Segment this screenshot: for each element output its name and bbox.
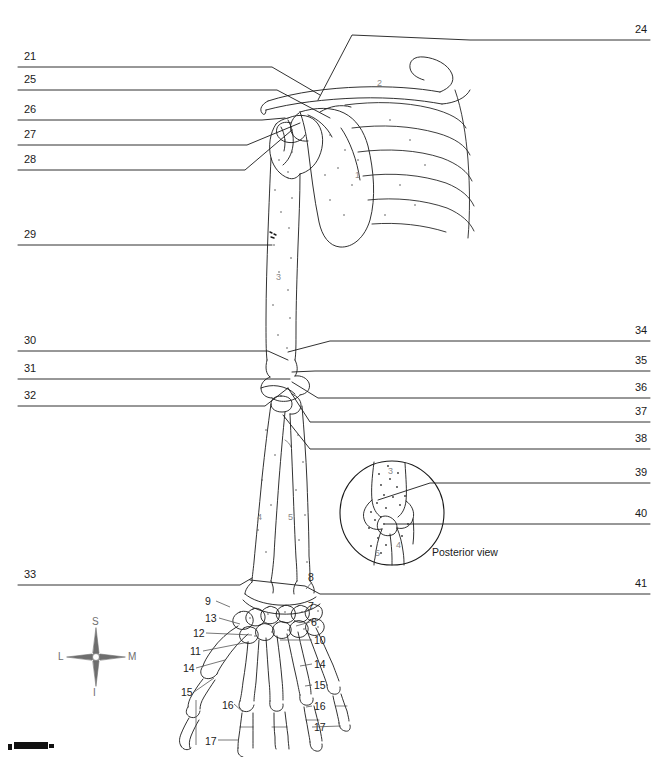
label-36[interactable]: 36 <box>635 382 647 393</box>
callout-16-right[interactable]: 16 <box>314 701 326 712</box>
label-39[interactable]: 39 <box>635 467 647 478</box>
bone-number-humerus: 3 <box>276 273 281 282</box>
callout-7[interactable]: 7 <box>308 601 314 612</box>
skeleton-figure <box>0 0 668 757</box>
label-32[interactable]: 32 <box>24 390 36 401</box>
callout-17-right[interactable]: 17 <box>314 722 326 733</box>
callout-10[interactable]: 10 <box>314 635 326 646</box>
inset-bone-number-radius: 4 <box>396 541 401 550</box>
bone-number-scapula: 1 <box>355 171 360 180</box>
callout-15-left[interactable]: 15 <box>181 687 193 698</box>
inset-bone-number-ulna: 5 <box>375 549 380 558</box>
bone-number-ulna: 5 <box>288 513 293 522</box>
label-33[interactable]: 33 <box>24 569 36 580</box>
label-37[interactable]: 37 <box>635 406 647 417</box>
callout-17-left[interactable]: 17 <box>205 736 217 747</box>
label-27[interactable]: 27 <box>24 129 36 140</box>
label-31[interactable]: 31 <box>24 363 36 374</box>
callout-14-left[interactable]: 14 <box>183 663 195 674</box>
label-24[interactable]: 24 <box>635 24 647 35</box>
footer-logo-tick-right <box>49 744 54 748</box>
footer-logo-bar <box>14 742 48 749</box>
inset-bone-number-humerus: 3 <box>388 467 393 476</box>
leader-lines-left <box>18 67 330 585</box>
callout-13[interactable]: 13 <box>205 613 217 624</box>
leader-lines-right <box>250 35 650 594</box>
label-38[interactable]: 38 <box>635 433 647 444</box>
callout-12[interactable]: 12 <box>193 628 205 639</box>
callout-6[interactable]: 6 <box>311 617 317 628</box>
label-28[interactable]: 28 <box>24 154 36 165</box>
label-35[interactable]: 35 <box>635 355 647 366</box>
label-34[interactable]: 34 <box>635 325 647 336</box>
inset-caption-posterior-view: Posterior view <box>432 546 498 558</box>
compass-lateral: L <box>58 652 64 662</box>
worksheet-page: 21 25 26 27 28 29 30 31 32 33 24 34 35 3… <box>0 0 668 757</box>
rib-cage <box>345 90 474 238</box>
label-29[interactable]: 29 <box>24 229 36 240</box>
label-41[interactable]: 41 <box>635 578 647 589</box>
humerus-bone <box>266 115 323 377</box>
callout-11[interactable]: 11 <box>190 646 201 657</box>
compass-medial: M <box>128 652 136 662</box>
callout-16-left[interactable]: 16 <box>222 700 234 711</box>
bone-number-radius: 4 <box>257 513 262 522</box>
callout-14-right[interactable]: 14 <box>314 659 326 670</box>
compass-inferior: I <box>93 688 96 698</box>
label-25[interactable]: 25 <box>24 74 36 85</box>
anatomical-compass-rose <box>67 628 125 686</box>
label-26[interactable]: 26 <box>24 104 36 115</box>
footer-logo-tick-left <box>8 744 12 750</box>
compass-superior: S <box>92 617 99 627</box>
callout-9[interactable]: 9 <box>205 596 211 607</box>
bone-number-clavicle: 2 <box>377 79 382 88</box>
callout-15-right[interactable]: 15 <box>314 680 326 691</box>
label-40[interactable]: 40 <box>635 508 647 519</box>
bone-stipple-texture <box>249 119 426 637</box>
radius-ulna-bones <box>245 404 314 594</box>
clavicle-bone <box>261 57 470 115</box>
callout-8[interactable]: 8 <box>308 572 314 583</box>
label-21[interactable]: 21 <box>24 51 36 62</box>
posterior-view-inset <box>340 461 444 565</box>
label-30[interactable]: 30 <box>24 335 36 346</box>
